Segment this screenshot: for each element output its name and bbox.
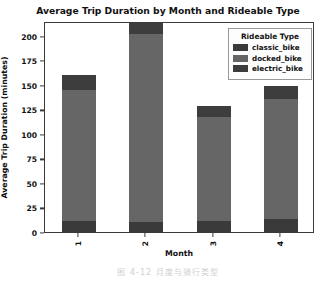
x-tick-label: 4: [278, 239, 283, 248]
x-tick-mark: [77, 233, 78, 237]
x-tick-label-text: 4: [276, 241, 285, 246]
bar-segment-electric-bike: [264, 86, 298, 99]
bar-segment-docked-bike: [264, 99, 298, 220]
bar-segment-electric-bike: [197, 106, 231, 117]
y-tick-label: 125: [21, 106, 37, 115]
y-tick-label: 25: [26, 204, 37, 213]
y-tick-label: 75: [26, 155, 37, 164]
chart-title: Average Trip Duration by Month and Ridea…: [0, 5, 336, 16]
legend-title: Rideable Type: [233, 32, 307, 41]
bar-stack: [197, 106, 231, 232]
bar-segment-electric-bike: [129, 23, 163, 34]
x-tick-mark: [145, 233, 146, 237]
x-tick-label-text: 1: [73, 241, 82, 246]
legend-rows: classic_bikedocked_bikeelectric_bike: [233, 43, 307, 73]
y-tick-label: 0: [32, 229, 37, 238]
x-axis-label: Month: [44, 249, 314, 258]
bar-stack: [129, 23, 163, 232]
legend-label: docked_bike: [252, 54, 302, 63]
x-tick-mark: [212, 233, 213, 237]
bar-segment-docked-bike: [129, 34, 163, 222]
bar-segment-docked-bike: [62, 90, 96, 222]
chart-figure: Average Trip Duration by Month and Ridea…: [0, 0, 336, 281]
legend-label: classic_bike: [252, 43, 300, 52]
y-tick-label: 100: [21, 130, 37, 139]
legend-item-classic-bike[interactable]: classic_bike: [233, 43, 307, 52]
x-tick-mark: [280, 233, 281, 237]
legend-swatch-electric-bike: [233, 65, 248, 72]
bar-segment-classic-bike: [197, 221, 231, 232]
legend-item-docked-bike[interactable]: docked_bike: [233, 54, 307, 63]
legend-swatch-classic-bike: [233, 44, 248, 51]
bar-stack: [62, 75, 96, 232]
bar-segment-docked-bike: [197, 117, 231, 221]
x-tick-label-text: 2: [141, 241, 150, 246]
legend-label: electric_bike: [252, 64, 303, 73]
y-tick-label: 50: [26, 179, 37, 188]
legend: Rideable Type classic_bikedocked_bikeele…: [228, 28, 312, 80]
legend-item-electric-bike[interactable]: electric_bike: [233, 64, 307, 73]
y-tick-label: 175: [21, 57, 37, 66]
x-tick-label-text: 3: [208, 241, 217, 246]
bar-stack: [264, 86, 298, 232]
figure-caption: 图 4-12 月度与骑行类型: [0, 266, 336, 276]
x-tick-label: 2: [143, 239, 148, 248]
legend-swatch-docked-bike: [233, 55, 248, 62]
bar-segment-classic-bike: [129, 222, 163, 232]
y-axis-ticks: 0255075100125150175200: [0, 22, 44, 233]
x-tick-label: 1: [75, 239, 80, 248]
y-tick-label: 200: [21, 32, 37, 41]
y-tick-label: 150: [21, 81, 37, 90]
bar-segment-classic-bike: [264, 219, 298, 232]
bar-segment-electric-bike: [62, 75, 96, 90]
bar-segment-classic-bike: [62, 221, 96, 232]
x-tick-label: 3: [210, 239, 215, 248]
